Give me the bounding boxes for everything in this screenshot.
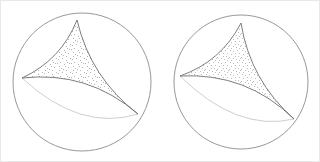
left-sphere-group xyxy=(13,13,151,151)
spheres-diagram xyxy=(1,1,320,162)
figure-frame xyxy=(0,0,320,162)
right-sphere-group xyxy=(174,15,308,149)
